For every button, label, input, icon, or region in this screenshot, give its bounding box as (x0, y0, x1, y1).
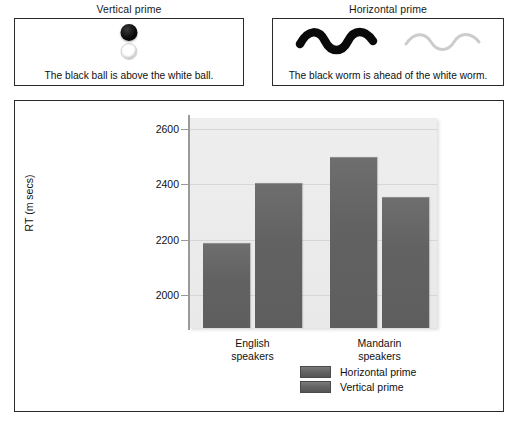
vertical-prime-illustration (15, 19, 243, 63)
prime-title-vertical: Vertical prime (14, 0, 244, 15)
prime-panel-horizontal: Horizontal prime The black worm is ahead… (272, 0, 504, 86)
gridline (189, 129, 437, 130)
legend-swatch-icon (300, 366, 331, 378)
x-axis-category-label: Mandarinspeakers (330, 337, 430, 362)
y-axis-tick-label: 2600 (133, 123, 179, 135)
bar (382, 197, 429, 328)
prime-title-horizontal: Horizontal prime (272, 0, 504, 15)
prime-box-vertical: The black ball is above the white ball. (14, 18, 244, 86)
chart-legend: Horizontal prime Vertical prime (300, 365, 416, 395)
x-axis-category-label: Englishspeakers (203, 337, 303, 362)
bar (203, 243, 250, 328)
prime-panels: Vertical prime The black ball is above t… (0, 0, 518, 95)
prime-caption-horizontal: The black worm is ahead of the white wor… (273, 70, 503, 82)
chart-panel: RT (m secs) 2000220024002600 Englishspea… (14, 100, 504, 412)
horizontal-prime-illustration (273, 19, 503, 63)
legend-swatch-icon (300, 381, 331, 393)
prime-panel-vertical: Vertical prime The black ball is above t… (14, 0, 244, 86)
legend-item-vertical-prime: Vertical prime (300, 380, 416, 393)
white-worm-icon (401, 27, 485, 61)
legend-label-horizontal-prime: Horizontal prime (340, 366, 416, 378)
y-axis-tick (181, 295, 188, 296)
white-ball-icon (121, 43, 138, 60)
bar (330, 157, 377, 328)
legend-label-vertical-prime: Vertical prime (340, 381, 404, 393)
gridline (189, 184, 437, 185)
bar (255, 183, 302, 328)
black-worm-icon (295, 27, 379, 61)
prime-box-horizontal: The black worm is ahead of the white wor… (272, 18, 504, 86)
black-ball-icon (121, 24, 138, 41)
plot-wrapper: RT (m secs) 2000220024002600 Englishspea… (15, 101, 503, 411)
plot-area (189, 118, 437, 328)
legend-item-horizontal-prime: Horizontal prime (300, 365, 416, 378)
y-axis-tick-label: 2000 (133, 289, 179, 301)
y-axis-tick-label: 2200 (133, 234, 179, 246)
prime-caption-vertical: The black ball is above the white ball. (15, 70, 243, 82)
y-axis-tick-label: 2400 (133, 178, 179, 190)
y-axis-title: RT (m secs) (23, 175, 35, 232)
y-axis-tick (181, 129, 188, 130)
y-axis-tick (181, 184, 188, 185)
y-axis-line (188, 115, 190, 330)
y-axis-tick (181, 240, 188, 241)
